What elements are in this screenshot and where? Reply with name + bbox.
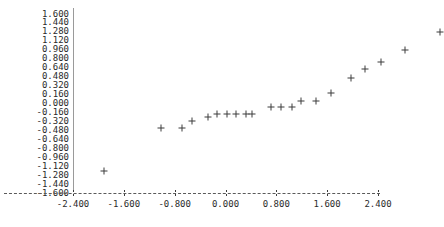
data-point xyxy=(223,110,230,117)
x-tick-label: 0.800 xyxy=(263,199,290,209)
data-point xyxy=(362,66,369,73)
y-axis-line xyxy=(73,8,74,191)
data-point xyxy=(278,104,285,111)
x-tick-label: -1.600 xyxy=(108,199,141,209)
x-axis-line xyxy=(4,193,380,195)
data-point xyxy=(347,74,354,81)
data-point xyxy=(402,46,409,53)
x-tick-label: 2.400 xyxy=(364,199,391,209)
data-point xyxy=(437,28,444,35)
data-point xyxy=(214,110,221,117)
x-tick-label: -0.800 xyxy=(158,199,191,209)
x-tick-label: 1.600 xyxy=(314,199,341,209)
data-point xyxy=(327,90,334,97)
data-point xyxy=(268,104,275,111)
data-point xyxy=(204,114,211,121)
x-tick-label: 0.000 xyxy=(212,199,239,209)
data-point xyxy=(248,110,255,117)
x-tick-label: -2.400 xyxy=(57,199,90,209)
data-point xyxy=(233,110,240,117)
data-point xyxy=(189,118,196,125)
data-point xyxy=(158,124,165,131)
data-point xyxy=(312,98,319,105)
data-point xyxy=(377,58,384,65)
data-point xyxy=(288,104,295,111)
data-point xyxy=(298,98,305,105)
data-point xyxy=(101,168,108,175)
data-point xyxy=(179,124,186,131)
